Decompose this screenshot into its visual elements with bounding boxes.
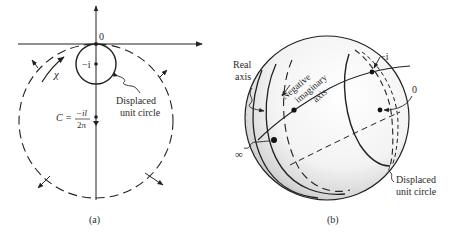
C-point	[94, 115, 98, 119]
real-axis-label-2: axis	[235, 71, 251, 82]
displaced-circle-label-b-1: Displaced	[396, 174, 436, 185]
minus-i-point	[94, 62, 98, 66]
origin-point	[94, 42, 98, 46]
displaced-circle-label-a-1: Displaced	[116, 95, 156, 106]
C-numerator: −il	[76, 108, 88, 118]
displaced-circle-label-b-2: unit circle	[396, 186, 437, 197]
displaced-circle-label-a-2: unit circle	[120, 107, 161, 118]
minus-i-label-a: −i	[82, 59, 91, 70]
figure: 0 −i χ Displaced unit circle C = −il 2π …	[0, 0, 455, 239]
expand-arrow-upright	[160, 70, 167, 77]
zero-point-b	[378, 108, 383, 113]
chi-label: χ	[53, 68, 60, 80]
panel-a: 0 −i χ Displaced unit circle C = −il 2π …	[18, 6, 202, 226]
infinity-point	[271, 137, 277, 143]
chi-arc-arrow	[42, 57, 64, 82]
neg-imag-midpoint	[291, 107, 296, 112]
circle-pointer-a	[118, 76, 140, 93]
origin-label-a: 0	[99, 31, 104, 42]
expand-arrow-upleft	[32, 60, 38, 68]
minus-i-label-b: −i	[380, 51, 389, 62]
minus-i-point-b	[370, 70, 375, 75]
caption-a: (a)	[89, 214, 100, 226]
C-equation-lhs: C =	[56, 112, 72, 123]
infinity-label: ∞	[235, 148, 243, 160]
expand-arrow-downright	[145, 173, 163, 185]
zero-label-b: 0	[412, 84, 417, 95]
C-arrow-icon	[93, 121, 99, 126]
C-denominator: 2π	[77, 120, 87, 130]
panel-b: Real axis Negative imaginary axis −i 0 ∞…	[233, 36, 437, 226]
caption-b: (b)	[327, 214, 339, 226]
real-axis-label-1: Real	[233, 59, 252, 70]
